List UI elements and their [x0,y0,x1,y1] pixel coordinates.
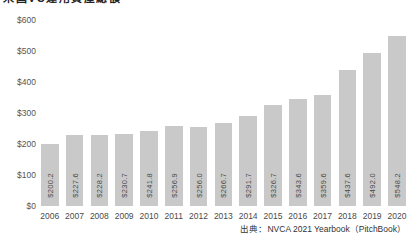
bar: $326.7 [264,105,282,206]
bar-value-label: $343.6 [293,173,302,198]
bar-value-label: $359.6 [318,173,327,198]
bar: $437.6 [339,70,357,206]
bar-value-label: $291.7 [244,173,253,198]
bar-value-label: $200.2 [45,173,54,198]
source-note: 出典：NVCA 2021 Yearbook（PitchBook） [240,224,406,234]
bar-value-label: $266.7 [219,173,228,198]
bar: $291.7 [239,116,257,206]
bar: $359.6 [314,95,332,206]
bar: $200.2 [41,144,59,206]
bar: $230.7 [115,134,133,206]
plot-area: $200.22006$227.62007$228.22008$230.72009… [0,0,417,238]
bar-value-label: $256.0 [194,173,203,198]
bar: $256.0 [190,127,208,206]
bar: $492.0 [363,53,381,206]
bar: $343.6 [289,99,307,206]
bar: $548.2 [388,36,406,206]
bar-value-label: $492.0 [368,173,377,198]
bar: $241.8 [140,131,158,206]
bar: $256.9 [165,126,183,206]
x-tick-label: 2020 [381,211,413,221]
chart-frame: 米国VC運用資産総額 $0$100$200$300$400$500$600 $2… [0,0,417,238]
bar: $266.7 [215,123,233,206]
bar-value-label: $256.9 [169,173,178,198]
bar: $227.6 [66,135,84,206]
bar: $228.2 [91,135,109,206]
bar-value-label: $227.6 [70,173,79,198]
bar-value-label: $548.2 [392,173,401,198]
bar-value-label: $241.8 [144,173,153,198]
bar-value-label: $326.7 [268,173,277,198]
bar-value-label: $228.2 [95,173,104,198]
bar-value-label: $230.7 [120,173,129,198]
bar-value-label: $437.6 [343,173,352,198]
